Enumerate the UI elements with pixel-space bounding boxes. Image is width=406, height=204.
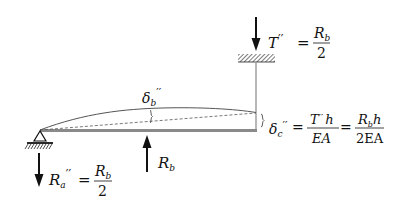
svg-text:Ra′′: Ra′′ xyxy=(48,168,71,190)
deflected-shape-curve xyxy=(40,108,256,130)
beam xyxy=(40,129,257,132)
svg-text:=: = xyxy=(78,171,91,189)
svg-text:δc′′: δc′′ xyxy=(269,119,288,139)
ceiling-support-icon xyxy=(238,54,275,62)
pin-support-icon xyxy=(25,131,53,149)
reaction-a-arrow-icon xyxy=(35,153,44,187)
applied-force-label: Rb xyxy=(157,154,175,173)
svg-text:Rb: Rb xyxy=(157,154,175,173)
svg-text:2: 2 xyxy=(317,45,326,61)
svg-text:T′′h: T′′h xyxy=(310,112,334,127)
applied-force-arrow-icon xyxy=(143,135,152,172)
svg-text:δb′′: δb′′ xyxy=(142,86,162,108)
beam-diagram: T′′ = Rb 2 δb′′ δc′′ = T′′h EA = Rbh 2EA xyxy=(0,0,406,204)
rod-end-brace-icon xyxy=(261,114,264,127)
reaction-a-label: Ra′′ = Rb 2 xyxy=(48,163,112,199)
beam-deflection-label: δb′′ xyxy=(142,86,162,108)
tension-label: T′′ = Rb 2 xyxy=(268,25,331,61)
svg-text:=: = xyxy=(297,34,310,52)
svg-text:Rbh: Rbh xyxy=(357,112,381,129)
rod-elongation-label: δc′′ = T′′h EA = Rbh 2EA xyxy=(269,112,384,146)
svg-text:2EA: 2EA xyxy=(356,131,384,146)
svg-text:Rb: Rb xyxy=(94,163,112,181)
tension-arrow-icon xyxy=(252,17,261,51)
svg-text:T′′: T′′ xyxy=(268,33,284,52)
chord-dashed-line xyxy=(40,113,256,130)
svg-text:=: = xyxy=(340,119,352,135)
svg-text:=: = xyxy=(292,119,304,135)
svg-text:2: 2 xyxy=(98,183,107,199)
svg-text:Rb: Rb xyxy=(313,25,331,43)
svg-text:EA: EA xyxy=(311,131,331,146)
